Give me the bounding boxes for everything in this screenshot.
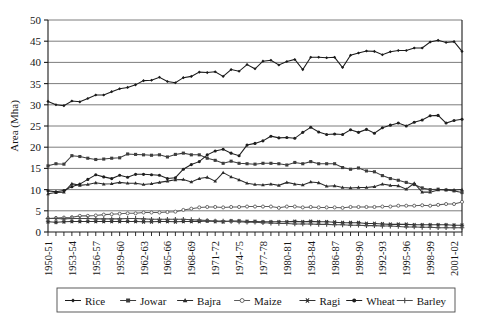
data-point xyxy=(412,181,416,184)
x-tick-label-1965-66: 1965-66 xyxy=(162,241,173,276)
data-point xyxy=(182,152,185,155)
x-tick-label-1962-63: 1962-63 xyxy=(139,241,150,276)
data-point xyxy=(150,211,153,214)
data-point xyxy=(238,205,241,208)
data-point xyxy=(325,162,328,165)
data-point xyxy=(93,217,98,222)
data-point xyxy=(109,217,114,222)
data-point xyxy=(308,222,313,227)
data-point xyxy=(333,133,336,136)
series-markers-bajra xyxy=(46,171,464,196)
data-point xyxy=(445,202,448,205)
x-tick-label-1983-84: 1983-84 xyxy=(306,240,317,276)
data-point xyxy=(277,162,280,165)
x-tick-label-1995-96: 1995-96 xyxy=(401,241,412,276)
data-point xyxy=(365,49,368,52)
y-tick-label-30: 30 xyxy=(30,99,42,111)
data-point xyxy=(356,223,361,228)
x-axis-ticks: 1950-511953-541956-571959-601962-631965-… xyxy=(43,232,462,276)
data-point xyxy=(405,49,408,52)
data-point xyxy=(317,130,320,133)
data-point xyxy=(292,222,297,227)
data-point xyxy=(245,205,248,208)
data-point xyxy=(86,157,89,160)
series-maize xyxy=(46,200,463,220)
data-point xyxy=(94,173,97,176)
data-point xyxy=(158,211,161,214)
data-point xyxy=(149,217,154,222)
data-point xyxy=(277,136,280,139)
legend-marker-square xyxy=(126,299,130,303)
gridlines xyxy=(48,20,462,211)
data-point xyxy=(452,119,455,122)
legend-label-barley: Barley xyxy=(417,295,447,307)
data-point xyxy=(381,205,384,208)
y-tick-label-35: 35 xyxy=(30,78,42,90)
legend-label-rice: Rice xyxy=(85,295,105,307)
data-point xyxy=(413,121,416,124)
data-point xyxy=(269,135,272,138)
data-point xyxy=(134,173,137,176)
data-point xyxy=(381,126,384,129)
data-point xyxy=(141,217,146,222)
data-point xyxy=(205,218,210,223)
data-point xyxy=(101,217,106,222)
data-point xyxy=(349,168,352,171)
data-point xyxy=(102,158,105,161)
data-point xyxy=(269,205,272,208)
data-point xyxy=(460,200,463,203)
data-point xyxy=(182,208,185,211)
data-point xyxy=(166,211,169,214)
data-point xyxy=(206,205,209,208)
data-point xyxy=(397,121,400,124)
data-point xyxy=(78,155,81,158)
data-point xyxy=(174,153,177,156)
data-point xyxy=(174,210,177,213)
data-point xyxy=(421,204,424,207)
y-axis-title-text: Area (Mha) xyxy=(8,100,21,152)
data-point xyxy=(301,162,304,165)
legend-label-jowar: Jowar xyxy=(140,295,167,307)
data-point xyxy=(324,222,329,227)
data-point xyxy=(365,128,368,131)
data-point xyxy=(173,217,178,222)
data-point xyxy=(198,160,201,163)
data-point xyxy=(54,103,57,106)
data-point xyxy=(428,225,433,230)
data-point xyxy=(142,173,145,176)
series-markers-jowar xyxy=(46,152,463,195)
data-point xyxy=(413,204,416,207)
y-axis-title: Area (Mha) xyxy=(8,100,21,152)
data-point xyxy=(445,121,448,124)
data-point xyxy=(245,162,248,165)
series-barley xyxy=(46,216,465,230)
data-point xyxy=(357,205,360,208)
data-point xyxy=(126,86,129,89)
x-tick-label-1968-69: 1968-69 xyxy=(186,241,197,276)
data-point xyxy=(110,213,113,216)
data-point xyxy=(253,220,258,225)
x-tick-label-1989-90: 1989-90 xyxy=(354,241,365,276)
y-tick-label-50: 50 xyxy=(30,14,42,26)
legend-label-maize: Maize xyxy=(254,295,282,307)
data-point xyxy=(420,225,425,230)
data-point xyxy=(54,190,57,193)
data-point xyxy=(229,219,234,224)
data-point xyxy=(261,220,266,225)
data-point xyxy=(285,180,289,183)
data-point xyxy=(389,205,392,208)
data-point xyxy=(222,148,225,151)
data-point xyxy=(261,139,264,142)
data-point xyxy=(404,225,409,230)
data-point xyxy=(221,219,226,224)
data-point xyxy=(397,179,400,182)
area-under-cereals-line-chart: 05101520253035404550Area (Mha)1950-51195… xyxy=(0,0,484,322)
data-point xyxy=(429,204,432,207)
data-point xyxy=(317,56,320,59)
data-point xyxy=(309,160,312,163)
data-point xyxy=(86,97,89,100)
data-point xyxy=(301,131,304,134)
data-point xyxy=(341,206,344,209)
data-point xyxy=(142,211,145,214)
series-line-rice xyxy=(48,40,462,105)
